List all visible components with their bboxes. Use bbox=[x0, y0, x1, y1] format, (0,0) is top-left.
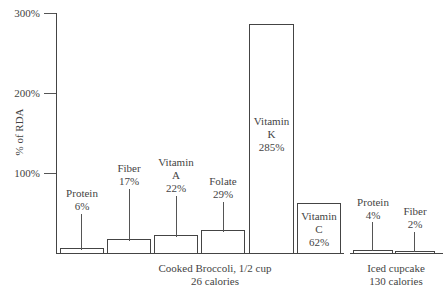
leader-cupcake-fiber bbox=[414, 232, 415, 252]
tick-mark-200 bbox=[44, 93, 56, 94]
label-broccoli-vitamin-k: Vitamin K 285% bbox=[247, 115, 296, 154]
y-tick-100: 100% bbox=[0, 167, 40, 179]
y-tick-300: 300% bbox=[0, 7, 40, 19]
group-label-cupcake: Iced cupcake 130 calories bbox=[350, 262, 442, 288]
label-broccoli-fiber: Fiber 17% bbox=[103, 162, 155, 188]
bar-cupcake-fiber bbox=[395, 251, 435, 254]
tick-mark-300 bbox=[44, 13, 56, 14]
label-cupcake-fiber: Fiber 2% bbox=[390, 205, 440, 231]
label-broccoli-folate: Folate 29% bbox=[197, 175, 249, 201]
group-label-broccoli: Cooked Broccoli, 1/2 cup 26 calories bbox=[130, 262, 300, 288]
bar-broccoli-protein bbox=[60, 248, 104, 254]
leader-broccoli-vitamin-a bbox=[176, 196, 177, 237]
leader-broccoli-protein bbox=[81, 214, 82, 250]
bar-broccoli-vitamin-a bbox=[154, 235, 198, 254]
tick-mark-100 bbox=[44, 173, 56, 174]
y-axis-label: % of RDA bbox=[13, 107, 25, 157]
bar-cupcake-protein bbox=[353, 250, 393, 254]
bar-broccoli-fiber bbox=[107, 239, 151, 254]
leader-broccoli-fiber bbox=[129, 189, 130, 241]
bar-broccoli-folate bbox=[201, 230, 245, 254]
leader-broccoli-folate bbox=[223, 202, 224, 232]
y-axis bbox=[56, 13, 57, 254]
y-tick-200: 200% bbox=[0, 87, 40, 99]
leader-cupcake-protein bbox=[372, 222, 373, 251]
label-broccoli-vitamin-c: Vitamin C 62% bbox=[295, 210, 343, 249]
label-broccoli-protein: Protein 6% bbox=[56, 187, 108, 213]
label-broccoli-vitamin-a: Vitamin A 22% bbox=[150, 156, 202, 195]
